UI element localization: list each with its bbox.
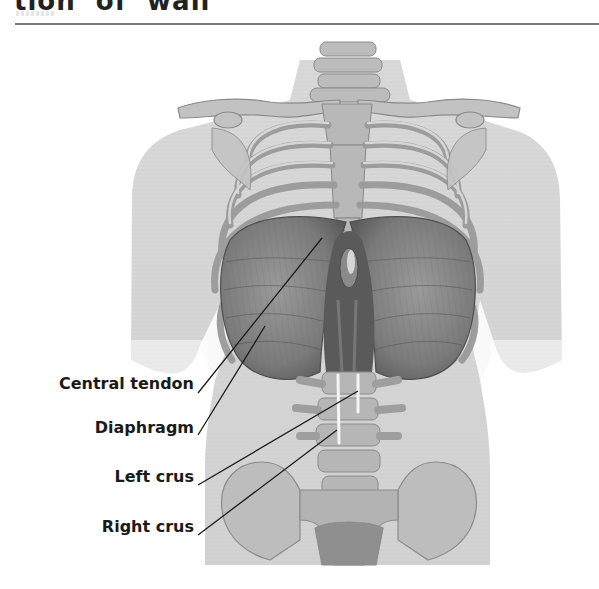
diagram-stage: tion of wall (0, 0, 599, 589)
label-left-crus: Left crus (24, 467, 194, 486)
label-central-tendon: Central tendon (24, 374, 194, 393)
label-diaphragm: Diaphragm (24, 418, 194, 437)
torso-illustration (0, 0, 599, 589)
right-crus-highlight (338, 375, 339, 443)
cervical-spine (310, 42, 390, 102)
label-right-crus: Right crus (24, 517, 194, 536)
